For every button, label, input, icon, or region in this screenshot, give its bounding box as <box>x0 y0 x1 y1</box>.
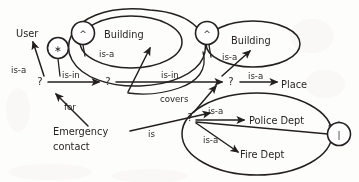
bar-node-right[interactable]: | <box>328 123 351 146</box>
relation-is: is <box>148 129 155 139</box>
entity-place[interactable]: Place <box>281 79 307 90</box>
building-left-group <box>80 16 182 68</box>
entity-emergency-line1[interactable]: Emergency <box>53 126 108 137</box>
edge-is-a-user <box>33 42 44 76</box>
asterisk-node-stub <box>58 59 60 76</box>
caret-node-right[interactable]: ^ <box>196 22 219 45</box>
entity-emergency-line2[interactable]: contact <box>53 141 90 152</box>
entity-fire-dept[interactable]: Fire Dept <box>240 149 284 160</box>
relation-is-a-place: is-a <box>248 71 263 81</box>
knowledge-graph-diagram: ∗ ^ ^ | ? ? ? ? User Building <box>0 0 359 182</box>
relation-is-a-police: is-a <box>208 106 223 116</box>
departments-group <box>182 93 332 175</box>
asterisk-node-label: ∗ <box>54 44 62 54</box>
caret-node-left[interactable]: ^ <box>72 22 95 45</box>
entity-building-right[interactable]: Building <box>231 35 271 46</box>
relation-is-in-1: is-in <box>62 70 80 80</box>
variable-node-q4[interactable]: ? <box>187 112 192 123</box>
relation-is-a-fire: is-a <box>203 135 218 145</box>
bar-node-right-label: | <box>337 130 340 140</box>
relation-covers: covers <box>160 94 189 104</box>
relation-is-a-building-right: is-a <box>222 52 237 62</box>
diagram-canvas: ∗ ^ ^ | ? ? ? ? User Building <box>0 0 359 182</box>
relation-is-a-user: is-a <box>11 65 26 75</box>
relation-is-in-2: is-in <box>161 70 179 80</box>
relation-for: for <box>64 102 76 112</box>
asterisk-node[interactable]: ∗ <box>48 38 69 59</box>
caret-node-right-label: ^ <box>203 29 211 39</box>
entity-user[interactable]: User <box>16 28 39 39</box>
caret-node-right-stub <box>209 45 211 57</box>
variable-node-q2[interactable]: ? <box>105 76 110 87</box>
entity-police-dept[interactable]: Police Dept <box>249 115 304 126</box>
variable-node-q1[interactable]: ? <box>37 76 42 87</box>
variable-node-q3[interactable]: ? <box>228 76 233 87</box>
entity-building-left[interactable]: Building <box>104 29 144 40</box>
caret-node-left-label: ^ <box>79 29 87 39</box>
relation-is-a-building-left: is-a <box>99 49 114 59</box>
